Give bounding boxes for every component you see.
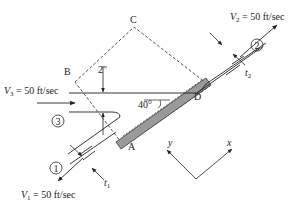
- point-b-label: B: [64, 66, 71, 77]
- t1-arrow-out: [92, 168, 104, 180]
- station-3-circle: 3: [52, 115, 64, 127]
- v1-label: V1 = 50 ft/sec: [21, 189, 76, 202]
- station-2-label: 2: [255, 40, 260, 51]
- t1-arrow-in: [70, 145, 82, 156]
- x-axis-label: x: [226, 137, 232, 148]
- v2-label: V2 = 50 ft/sec: [230, 11, 285, 24]
- station-3-label: 3: [56, 116, 61, 127]
- point-d-label: D: [194, 91, 201, 102]
- angle-label: 40°: [138, 99, 152, 110]
- station-2-circle: 2: [251, 39, 263, 51]
- jet-plate-diagram: 3 2 1 C B D A 2" 40° V3 = 50 ft/sec V2 =…: [0, 0, 302, 209]
- t2-arrow-in: [210, 33, 222, 45]
- coordinate-axes: y x: [167, 137, 232, 179]
- y-axis-arrow: [167, 150, 196, 179]
- x-axis-arrow: [196, 149, 232, 179]
- station-1-circle: 1: [50, 162, 62, 174]
- t1-label: t1: [104, 177, 111, 190]
- t2-label: t2: [245, 67, 252, 80]
- v3-label: V3 = 50 ft/sec: [4, 85, 59, 98]
- y-axis-label: y: [167, 137, 173, 148]
- point-c-label: C: [130, 14, 137, 25]
- point-a-label: A: [128, 141, 136, 152]
- station-1-label: 1: [54, 163, 59, 174]
- inclined-plate: [116, 78, 211, 149]
- jet-thickness-label: 2": [98, 64, 107, 75]
